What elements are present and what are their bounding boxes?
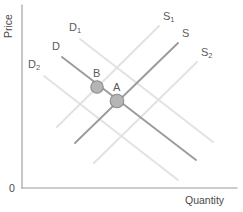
curve-label-demand-shift-right: D1: [69, 21, 81, 35]
supply-demand-diagram: D D1 D2 S S1 S2 B A Price Quantity 0: [0, 0, 243, 212]
curve-label-supply-shift-left: S1: [163, 10, 175, 24]
plot-canvas: D D1 D2 S S1 S2 B A Price Quantity 0: [0, 0, 243, 212]
curve-demand-shift-left: [44, 76, 178, 180]
curve-label-demand-original: D: [52, 40, 60, 52]
curve-label-supply-shift-right: S2: [201, 46, 213, 60]
shifted-curves-group: [44, 26, 213, 180]
curve-demand-original: [62, 57, 196, 160]
origin-label: 0: [9, 182, 15, 194]
y-axis-title: Price: [2, 14, 14, 38]
curve-label-demand-shift-left: D2: [28, 58, 40, 72]
point-label-b: B: [93, 67, 100, 79]
x-axis-title: Quantity: [185, 194, 225, 206]
curve-label-supply-original: S: [182, 27, 189, 39]
point-label-a: A: [113, 81, 121, 93]
point-marker-b: [91, 81, 103, 93]
axis-titles-group: Price Quantity 0: [2, 14, 225, 206]
point-marker-a: [110, 94, 124, 108]
axes-group: [22, 5, 237, 188]
curve-labels-group: D D1 D2 S S1 S2: [28, 10, 213, 72]
